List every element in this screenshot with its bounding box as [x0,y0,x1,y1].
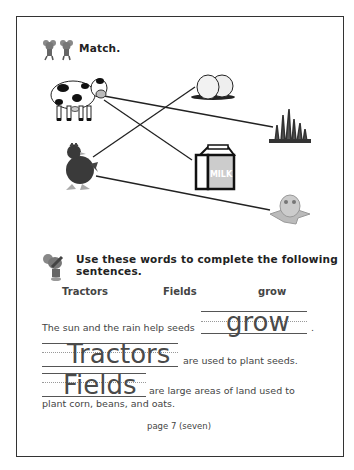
word-bank-tractors: Tractors [62,286,108,297]
sentence-1-text: The sun and the rain help seeds [42,322,195,333]
sentence-3-text: are large areas of land used to [149,385,295,396]
milk-carton-icon[interactable]: MILK [194,145,236,191]
word-bank-grow: grow [258,286,286,297]
cow-icon[interactable] [45,72,111,124]
answer-2-input[interactable]: Tractors [67,341,170,367]
sentence-1-period: . [311,322,314,333]
milk-label: MILK [210,170,233,179]
chick-icon[interactable] [268,192,312,226]
instructions-line-2: sentences. [76,265,338,277]
page-number: page 7 (seven) [147,421,211,431]
hen-icon[interactable] [60,142,100,192]
sentence-3-continuation: plant corn, beans, and oats. [42,398,175,409]
eggs-icon[interactable] [188,73,238,101]
mouse-pencil-icon [40,251,70,281]
word-bank-fields: Fields [163,286,197,297]
answer-1-input[interactable]: grow [226,309,290,335]
sentence-2-text: are used to plant seeds. [183,355,298,366]
instructions-heading: Use these words to complete the followin… [76,253,338,277]
grass-icon[interactable] [267,105,313,145]
instructions-line-1: Use these words to complete the followin… [76,253,338,265]
answer-3-input[interactable]: Fields [63,372,137,398]
